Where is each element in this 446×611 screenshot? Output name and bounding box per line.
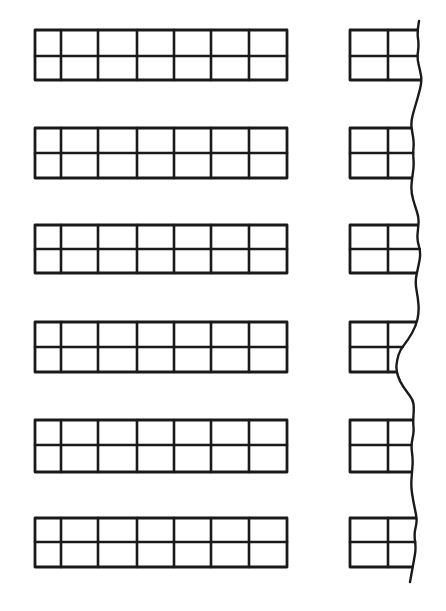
wavy-break-line [396, 21, 421, 582]
grid-block-left [35, 225, 287, 273]
grid-blocks-diagram [0, 0, 446, 611]
left-grid-blocks [35, 30, 287, 567]
grid-block-left [35, 30, 287, 80]
grid-block-left [35, 518, 287, 567]
grid-block-left [35, 420, 287, 472]
grid-block-left [35, 128, 287, 178]
grid-block-right-truncated [350, 225, 420, 273]
grid-block-right-truncated [350, 518, 417, 567]
grid-block-right-truncated [350, 30, 422, 80]
grid-block-left [35, 322, 287, 372]
grid-block-right-truncated [350, 322, 417, 372]
grid-block-right-truncated [350, 128, 413, 178]
grid-block-right-truncated [350, 420, 413, 472]
